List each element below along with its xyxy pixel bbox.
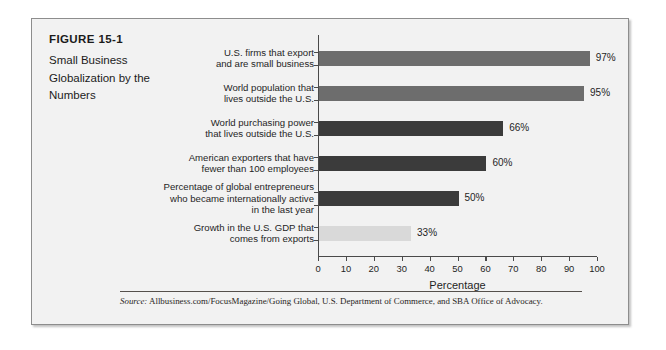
x-axis-tick [513,257,514,261]
bar [319,226,411,241]
category-label-line: Growth in the U.S. GDP that [162,222,314,234]
category-label-line: U.S. firms that export [162,47,314,59]
category-label-line: fewer than 100 employees [162,163,314,175]
bar [319,156,486,171]
bar-value-label: 95% [590,87,610,98]
bar-chart: U.S. firms that exportand are small busi… [162,35,614,285]
y-axis-tick [314,240,318,241]
x-axis-tick-label: 90 [564,263,574,274]
bar [319,86,584,101]
x-axis-tick [597,257,598,261]
y-axis-tick [314,157,318,158]
bar [319,191,459,206]
y-axis-tick [314,122,318,123]
category-label-line: comes from exports [162,233,314,245]
category-label-line: who became internationally active [162,193,314,205]
category-label: U.S. firms that exportand are small busi… [162,47,314,71]
x-axis-tick-label: 50 [452,263,462,274]
category-label-line: in the last year [162,204,314,216]
figure-panel: FIGURE 15-1 Small Business Globalization… [31,18,629,325]
plot-area: Percentage 97%95%66%60%50%33%01020304050… [318,35,614,257]
y-axis-tick [314,87,318,88]
x-axis-tick-label: 10 [341,263,351,274]
category-label-column: U.S. firms that exportand are small busi… [162,35,314,257]
y-axis-line [318,35,319,257]
category-label: World purchasing powerthat lives outside… [162,117,314,141]
category-label: Percentage of global entrepreneurswho be… [162,181,314,216]
x-axis-tick [346,257,347,261]
x-axis-tick [374,257,375,261]
x-axis-tick [569,257,570,261]
x-axis-tick-label: 20 [369,263,379,274]
bar-value-label: 33% [417,227,437,238]
category-label: World population thatlives outside the U… [162,82,314,106]
category-label: American exporters that havefewer than 1… [162,152,314,176]
bar-value-label: 97% [596,52,616,63]
bar-value-label: 60% [492,157,512,168]
x-axis-tick-label: 100 [589,263,605,274]
x-axis-tick [541,257,542,261]
x-axis-tick [458,257,459,261]
source-note: Source: Allbusiness.com/FocusMagazine/Go… [120,296,620,306]
x-axis-tick-label: 60 [480,263,490,274]
x-axis-tick-label: 0 [315,263,320,274]
y-axis-tick [314,100,318,101]
x-axis-tick-label: 30 [396,263,406,274]
x-axis-tick [318,257,319,261]
y-axis-tick [314,65,318,66]
category-label-line: that lives outside the U.S. [162,128,314,140]
category-label-line: World population that [162,82,314,94]
category-label-line: lives outside the U.S. [162,93,314,105]
source-divider [120,291,582,292]
category-label-line: and are small business [162,58,314,70]
y-axis-tick [314,52,318,53]
source-label: Source: [120,296,147,306]
category-label-line: American exporters that have [162,152,314,164]
x-axis-tick [485,257,486,261]
category-label: Growth in the U.S. GDP thatcomes from ex… [162,222,314,246]
x-axis-tick-label: 40 [424,263,434,274]
x-axis-tick-label: 80 [536,263,546,274]
y-axis-tick [314,227,318,228]
x-axis-tick [430,257,431,261]
y-axis-tick [314,192,318,193]
x-axis-tick [402,257,403,261]
bar-value-label: 50% [465,192,485,203]
y-axis-tick [314,135,318,136]
bar [319,121,503,136]
bar-value-label: 66% [509,122,529,133]
y-axis-tick [314,170,318,171]
category-label-line: Percentage of global entrepreneurs [162,181,314,193]
x-axis-tick-label: 70 [508,263,518,274]
source-text: Allbusiness.com/FocusMagazine/Going Glob… [149,296,543,306]
bar [319,51,590,66]
x-axis-title: Percentage [318,279,597,291]
y-axis-tick [314,205,318,206]
category-label-line: World purchasing power [162,117,314,129]
